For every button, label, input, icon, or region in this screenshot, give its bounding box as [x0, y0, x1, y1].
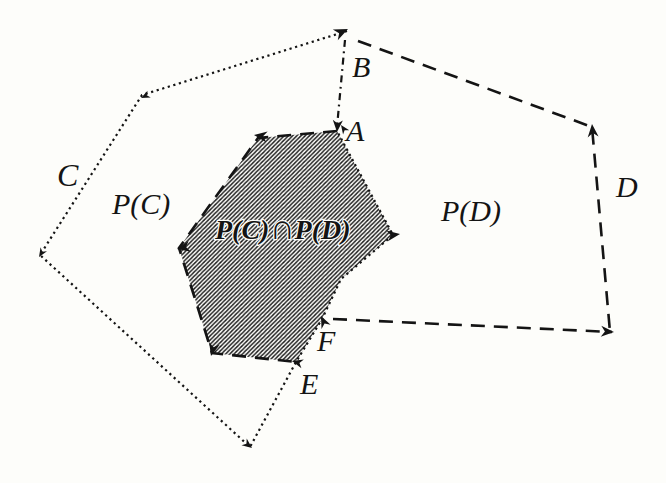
label-P-of-C: P(C)	[111, 187, 170, 221]
polygon-intersection-figure: CP(C)BAP(D)DFEP(C)∩P(D)	[0, 0, 666, 483]
label-P-of-D: P(D)	[440, 194, 501, 228]
label-intersection: P(C)∩P(D)	[214, 208, 351, 247]
label-C: C	[57, 157, 79, 193]
label-F: F	[316, 324, 336, 357]
label-B: B	[352, 50, 370, 83]
label-A: A	[344, 114, 365, 147]
label-D: D	[615, 170, 638, 203]
figure-canvas: CP(C)BAP(D)DFEP(C)∩P(D)	[0, 0, 666, 483]
label-E: E	[299, 367, 318, 400]
